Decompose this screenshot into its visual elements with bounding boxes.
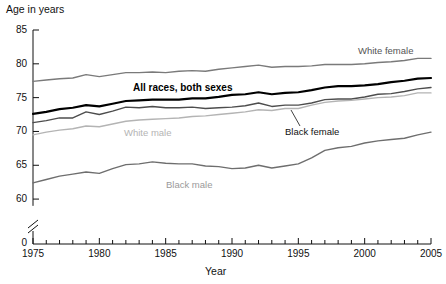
series-label-white-female: White female xyxy=(358,46,413,56)
x-tick-label: 1990 xyxy=(212,249,252,259)
series-label-black-female: Black female xyxy=(285,127,339,137)
y-tick-label-zero: 0 xyxy=(3,238,27,248)
x-tick-label: 1980 xyxy=(79,249,119,259)
y-tick-label: 65 xyxy=(3,160,27,170)
y-tick-label: 60 xyxy=(3,194,27,204)
series-label-all-races: All races, both sexes xyxy=(133,83,233,93)
y-tick-label: 85 xyxy=(3,25,27,35)
x-tick-label: 2005 xyxy=(411,249,446,259)
x-tick-label: 1975 xyxy=(13,249,53,259)
x-axis-title: Year xyxy=(205,266,226,277)
x-tick-label: 1995 xyxy=(278,249,318,259)
series-label-white-male: White male xyxy=(124,128,172,138)
chart-plot-area xyxy=(0,0,446,284)
x-tick-label: 1985 xyxy=(146,249,186,259)
life-expectancy-line-chart: Age in years White female All races, bot… xyxy=(0,0,446,284)
y-tick-label: 70 xyxy=(3,126,27,136)
series-label-black-male: Black male xyxy=(166,180,212,190)
y-tick-label: 75 xyxy=(3,93,27,103)
x-tick-label: 2000 xyxy=(345,249,385,259)
y-tick-label: 80 xyxy=(3,59,27,69)
